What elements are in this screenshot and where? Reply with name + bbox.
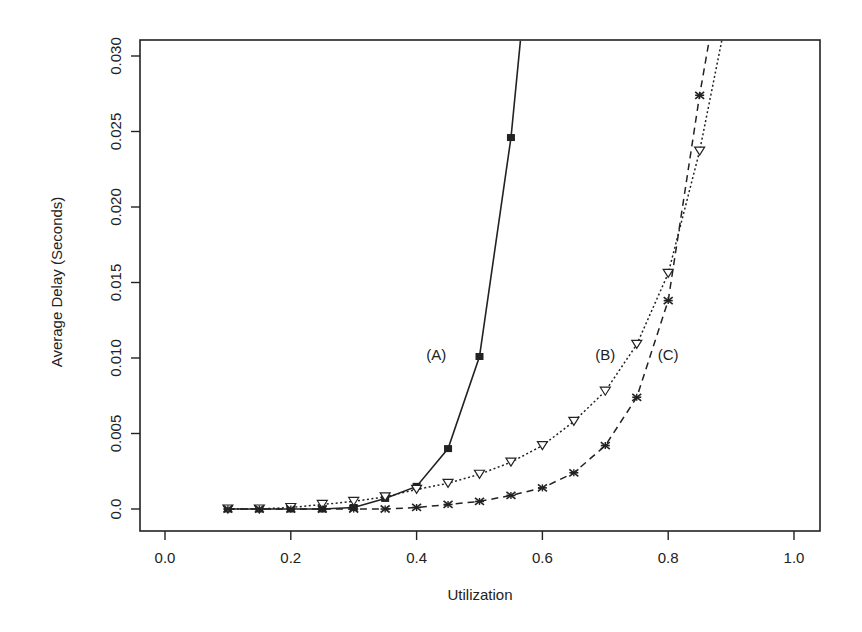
series-layer — [223, 41, 722, 513]
series-label-c: (C) — [658, 346, 679, 363]
x-tick-label: 0.6 — [532, 549, 553, 566]
series-c — [223, 41, 709, 513]
x-tick-label: 0.4 — [406, 549, 427, 566]
triangle-marker-icon — [506, 458, 516, 466]
series-a — [224, 41, 521, 513]
triangle-marker-icon — [443, 479, 453, 487]
triangle-marker-icon — [600, 387, 610, 395]
triangle-marker-icon — [537, 442, 547, 450]
y-tick-label: 0.025 — [107, 113, 124, 151]
star-marker-icon — [349, 506, 358, 513]
y-tick-label: 0.030 — [107, 37, 124, 75]
x-tick-label: 1.0 — [784, 549, 805, 566]
star-marker-icon — [695, 92, 704, 99]
star-marker-icon — [223, 506, 232, 513]
square-marker-icon — [476, 353, 484, 360]
y-tick-label: 0.005 — [107, 415, 124, 453]
triangle-marker-icon — [569, 417, 579, 425]
y-tick-label: 0.0 — [107, 499, 124, 520]
plot-frame — [140, 40, 820, 531]
star-marker-icon — [632, 394, 641, 401]
series-labels: (A)(B)(C) — [426, 346, 678, 363]
x-tick-label: 0.8 — [658, 549, 679, 566]
star-marker-icon — [506, 492, 515, 499]
square-marker-icon — [507, 134, 515, 141]
y-tick-label: 0.015 — [107, 264, 124, 302]
y-tick-label: 0.020 — [107, 188, 124, 226]
y-tick-label: 0.010 — [107, 339, 124, 377]
y-axis-title: Average Delay (Seconds) — [48, 197, 65, 368]
star-marker-icon — [381, 506, 390, 513]
y-axis: 0.00.0050.0100.0150.0200.0250.030 — [107, 37, 140, 519]
triangle-marker-icon — [475, 470, 485, 478]
star-marker-icon — [475, 498, 484, 505]
triangle-marker-icon — [632, 340, 642, 348]
star-marker-icon — [412, 504, 421, 511]
x-tick-label: 0.2 — [280, 549, 301, 566]
x-tick-label: 0.0 — [155, 549, 176, 566]
series-b — [223, 41, 722, 513]
series-line — [228, 41, 722, 509]
chart-canvas: 0.00.20.40.60.81.0 0.00.0050.0100.0150.0… — [0, 0, 862, 632]
star-marker-icon — [255, 506, 264, 513]
star-marker-icon — [569, 469, 578, 476]
series-line — [228, 41, 521, 509]
plot-border — [140, 40, 820, 531]
series-label-b: (B) — [595, 346, 615, 363]
star-marker-icon — [664, 297, 673, 304]
star-marker-icon — [444, 501, 453, 508]
square-marker-icon — [444, 445, 452, 452]
star-marker-icon — [286, 506, 295, 513]
x-axis: 0.00.20.40.60.81.0 — [155, 531, 805, 566]
triangle-marker-icon — [695, 147, 705, 155]
series-label-a: (A) — [426, 346, 446, 363]
star-marker-icon — [538, 484, 547, 491]
star-marker-icon — [318, 506, 327, 513]
star-marker-icon — [601, 442, 610, 449]
x-axis-title: Utilization — [447, 586, 512, 603]
series-line — [228, 41, 709, 509]
